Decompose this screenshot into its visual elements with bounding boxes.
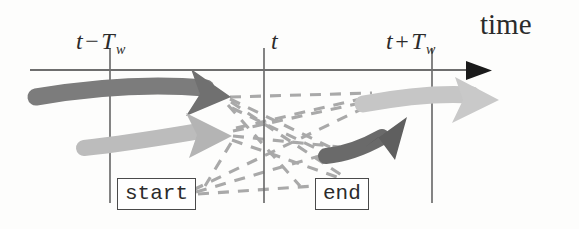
outgoing-light-shaft: [363, 94, 472, 104]
assoc-line-13: [232, 108, 330, 155]
tick-label-left-term: T: [101, 28, 115, 54]
tick-label-right-operator: +: [393, 28, 411, 54]
tick-label-center-base: t: [271, 28, 278, 54]
tick-label-left-subscript: w: [115, 42, 126, 57]
outgoing-dark-track: [326, 117, 407, 160]
tick-label-right-subscript: w: [425, 42, 436, 57]
tick-label-center: t: [271, 28, 278, 55]
tick-label-right: t+Tw: [386, 28, 436, 58]
assoc-line-1: [230, 93, 372, 97]
incoming-light-shaft: [84, 131, 200, 148]
incoming-dark-track: [36, 69, 231, 116]
incoming-dark-shaft: [36, 86, 206, 97]
tick-label-left-operator: −: [83, 28, 101, 54]
time-window-diagram: t−Tw t t+Tw time start end: [0, 0, 579, 229]
end-box: end: [315, 178, 369, 210]
tick-label-right-term: T: [411, 28, 425, 54]
incoming-light-track: [84, 113, 232, 158]
axis-arrowhead-icon: [466, 61, 492, 80]
start-box: start: [117, 178, 196, 210]
outgoing-light-track: [363, 77, 499, 123]
axis-title: time: [480, 8, 532, 41]
tick-label-left: t−Tw: [76, 28, 126, 58]
